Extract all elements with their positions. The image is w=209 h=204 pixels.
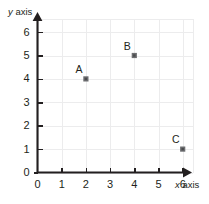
x-axis-arrowhead — [183, 168, 192, 178]
y-axis-tick-label: 3 — [23, 96, 29, 108]
y-axis-title: y axis — [7, 6, 33, 17]
y-axis-arrowhead — [33, 12, 43, 21]
point-label: B — [124, 40, 131, 52]
y-axis-tick-label: 6 — [23, 26, 29, 38]
x-axis-title-text: axis — [180, 179, 200, 190]
x-axis-tick-label: 4 — [131, 178, 137, 190]
axes-group — [33, 12, 192, 177]
x-axis-tick-label: 1 — [59, 178, 65, 190]
chart-canvas: 01234560123456 ABC y axis x axis — [0, 0, 209, 204]
y-axis-tick-label: 5 — [23, 49, 29, 61]
y-axis-tick-label: 0 — [23, 166, 29, 178]
point-marker-center — [182, 148, 184, 150]
x-axis-tick-label: 0 — [34, 178, 40, 190]
point-label: C — [172, 133, 180, 145]
y-axis-tick-label: 1 — [23, 143, 29, 155]
y-axis-tick-label: 4 — [23, 72, 29, 84]
y-axis-tick-label: 2 — [23, 119, 29, 131]
y-axis-title-text: axis — [13, 6, 33, 17]
tick-labels-group: 01234560123456 — [23, 26, 185, 191]
point-label: A — [75, 63, 82, 75]
gridlines-group — [38, 19, 194, 173]
point-marker-center — [85, 78, 87, 80]
x-axis-title: x axis — [174, 179, 200, 190]
x-axis-tick-label: 5 — [155, 178, 161, 190]
x-axis-tick-label: 3 — [107, 178, 113, 190]
coordinate-grid-chart: 01234560123456 ABC y axis x axis — [0, 0, 209, 204]
point-marker-center — [133, 54, 135, 56]
x-axis-tick-label: 2 — [83, 178, 89, 190]
